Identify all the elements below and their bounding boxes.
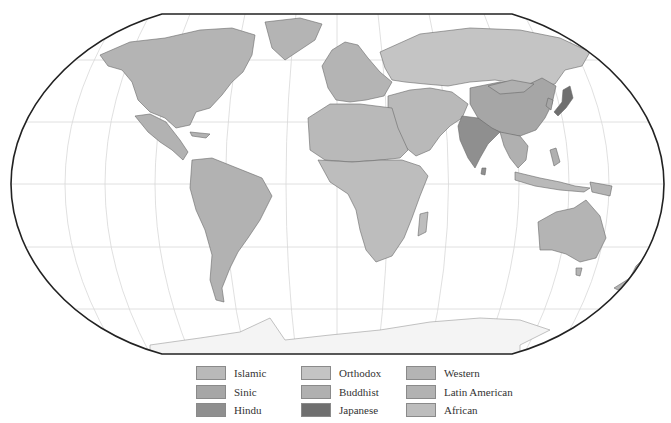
legend-item-orthodox: Orthodox [301, 364, 406, 383]
legend-item-hindu: Hindu [196, 401, 301, 420]
legend-label: Orthodox [339, 367, 381, 379]
world-map [0, 0, 671, 360]
swatch-african [406, 403, 436, 417]
legend-item-islamic: Islamic [196, 364, 301, 383]
legend-label: Sinic [234, 386, 257, 398]
legend-label: Islamic [234, 367, 266, 379]
legend-item-african: African [406, 401, 526, 420]
legend-label: Latin American [444, 386, 513, 398]
swatch-buddhist [301, 385, 331, 399]
legend: Islamic Orthodox Western Sinic Buddhist … [196, 364, 526, 420]
legend-item-western: Western [406, 364, 526, 383]
legend-label: Western [444, 367, 480, 379]
swatch-western [406, 366, 436, 380]
swatch-hindu [196, 403, 226, 417]
legend-label: African [444, 404, 478, 416]
swatch-latin-american [406, 385, 436, 399]
north-africa [308, 104, 408, 162]
swatch-orthodox [301, 366, 331, 380]
legend-label: Hindu [234, 404, 262, 416]
swatch-sinic [196, 385, 226, 399]
swatch-japanese [301, 403, 331, 417]
swatch-islamic [196, 366, 226, 380]
legend-label: Japanese [339, 404, 378, 416]
legend-label: Buddhist [339, 386, 379, 398]
legend-item-latin-american: Latin American [406, 383, 526, 402]
legend-item-japanese: Japanese [301, 401, 406, 420]
legend-item-sinic: Sinic [196, 383, 301, 402]
legend-item-buddhist: Buddhist [301, 383, 406, 402]
